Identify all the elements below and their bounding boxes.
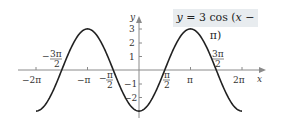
y-axis-arrow-icon	[136, 16, 142, 23]
tick-label-pi: π	[187, 75, 193, 85]
tick-label-y2: 2	[129, 38, 135, 48]
tick-label-y1: 1	[129, 52, 135, 62]
equation-body: = 3 cos (	[183, 11, 236, 24]
svg-text:−: −	[42, 51, 50, 61]
x-axis-label: x	[257, 74, 262, 84]
svg-text:π: π	[107, 70, 113, 80]
tick-label-ym1: −1	[124, 79, 137, 89]
equation-label: y = 3 cos (x − π)	[173, 9, 258, 27]
tick-label-neg-three-pi-over-two: − 3π 2	[42, 49, 62, 69]
svg-text:2: 2	[215, 59, 221, 69]
svg-text:2: 2	[107, 80, 113, 90]
tick-label-neg-two-pi: −2π	[22, 75, 41, 85]
y-axis-label: y	[129, 12, 136, 22]
svg-text:−: −	[99, 73, 107, 83]
tick-label-neg-pi: −π	[77, 75, 91, 85]
svg-text:2: 2	[54, 59, 60, 69]
svg-text:π: π	[164, 70, 170, 80]
tick-label-y3: 3	[129, 24, 135, 34]
x-axis-arrow-icon	[259, 67, 266, 73]
svg-text:2: 2	[164, 80, 170, 90]
tick-label-neg-pi-over-two: − π 2	[99, 70, 113, 90]
svg-text:3π: 3π	[212, 49, 224, 59]
tick-label-pi-over-two: π 2	[163, 70, 170, 90]
svg-text:3π: 3π	[50, 49, 62, 59]
tick-label-two-pi: 2π	[233, 75, 245, 85]
tick-label-ym2: −2	[124, 93, 137, 103]
